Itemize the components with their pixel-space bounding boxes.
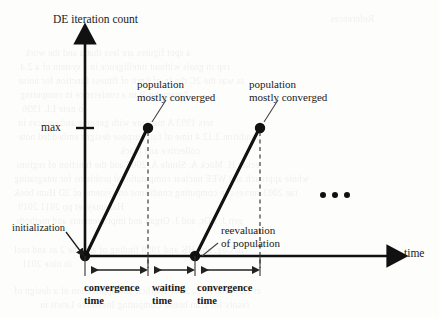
interval-label-convergence-time-1: convergence time [84,281,139,308]
interval-label-waiting-time: waiting time [152,281,185,308]
annotation-population-converged-2: population mostly converged [249,78,327,103]
interval-label-line1: convergence [197,281,252,294]
y-axis [76,42,94,256]
interval-label-line2: time [197,294,252,307]
marker-converged-1 [143,123,153,133]
annotation-reevaluation: reevaluation of population [221,224,280,249]
series-run-1 [80,123,153,261]
leader-converged-2 [264,100,278,122]
leader-reevaluation [202,243,218,256]
diagram-linework [0,0,439,317]
interval-label-line1: convergence [84,281,139,294]
leader-converged-1 [152,100,166,122]
interval-label-line2: time [152,294,185,307]
ellipsis-dot [332,192,338,198]
interval-label-convergence-time-2: convergence time [197,281,252,308]
interval-label-line1: waiting [152,281,185,294]
x-axis-label: time [404,247,424,260]
continuation-ellipsis-icon [320,189,356,203]
figure-canvas: Referencesa spot figures are less that a… [0,0,439,317]
ramp-line-1 [86,129,147,255]
y-axis-tick-label-max: max [41,121,61,134]
y-axis-label: DE iteration count [53,13,138,26]
marker-converged-2 [255,123,265,133]
interval-tick-group [85,256,260,276]
leader-initialization [66,232,81,252]
annotation-population-converged-1: population mostly converged [137,78,215,103]
ellipsis-dot [320,192,326,198]
interval-label-line2: time [84,294,139,307]
ellipsis-dot [344,192,350,198]
annotation-initialization: initialization [12,222,65,234]
